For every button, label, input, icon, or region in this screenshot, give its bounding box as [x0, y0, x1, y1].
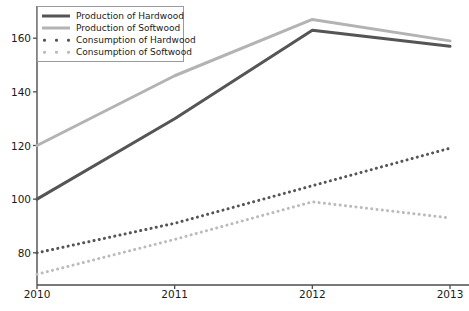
legend-label: Consumption of Softwood	[76, 47, 192, 58]
y-tick-label: 120	[0, 140, 31, 152]
legend-item-production-of-softwood: Production of Softwood	[41, 22, 179, 34]
x-tick-label: 2013	[437, 288, 464, 300]
x-tick-label: 2010	[24, 288, 51, 300]
legend-swatch-dotted-icon	[41, 35, 71, 46]
legend-item-consumption-of-hardwood: Consumption of Hardwood	[41, 34, 179, 46]
y-tick-label: 80	[0, 247, 31, 259]
x-tick-label: 2012	[299, 288, 326, 300]
legend-label: Production of Softwood	[76, 23, 180, 34]
legend-swatch-dotted-icon	[41, 47, 71, 58]
y-tick-label: 140	[0, 86, 31, 98]
chart-figure: 80100120140160 2010201120122013 Producti…	[0, 0, 469, 311]
legend-swatch-line-icon	[41, 11, 71, 22]
x-tick-label: 2011	[161, 288, 188, 300]
y-tick-label: 100	[0, 193, 31, 205]
legend-swatch-line-icon	[41, 23, 71, 34]
legend-label: Consumption of Hardwood	[76, 35, 196, 46]
y-tick-label: 160	[0, 32, 31, 44]
chart-legend: Production of Hardwood Production of Sof…	[37, 6, 184, 62]
legend-item-consumption-of-softwood: Consumption of Softwood	[41, 46, 179, 58]
legend-label: Production of Hardwood	[76, 11, 184, 22]
legend-item-production-of-hardwood: Production of Hardwood	[41, 10, 179, 22]
